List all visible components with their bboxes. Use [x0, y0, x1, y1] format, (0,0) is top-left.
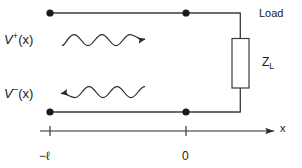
bottom-right-terminal-dot: [182, 108, 189, 115]
backward-wave-argument: (x): [18, 86, 33, 101]
load-label: Load: [259, 8, 283, 19]
top-left-terminal-dot: [46, 9, 53, 16]
backward-wave-label: V−(x): [4, 86, 33, 100]
load-impedance-label: ZL: [262, 56, 274, 71]
forward-wave-argument: (x): [18, 32, 33, 47]
axis-tick-label-minus-l: −ℓ: [39, 150, 50, 162]
backward-wave-arrow: [61, 87, 145, 98]
impedance-subscript: L: [269, 61, 274, 71]
bottom-left-terminal-dot: [46, 108, 53, 115]
schematic-drawing: [0, 0, 302, 168]
forward-wave-symbol: V: [4, 32, 13, 47]
transmission-line-diagram: V+(x) V−(x) Load ZL −ℓ 0 x: [0, 0, 302, 168]
load-impedance-box: [232, 39, 249, 89]
forward-wave-arrow: [62, 35, 145, 46]
forward-wave-label: V+(x): [4, 32, 33, 46]
backward-wave-symbol: V: [4, 86, 13, 101]
axis-tick-label-zero: 0: [182, 150, 189, 162]
top-right-terminal-dot: [182, 9, 189, 16]
x-axis-label: x: [280, 123, 286, 134]
